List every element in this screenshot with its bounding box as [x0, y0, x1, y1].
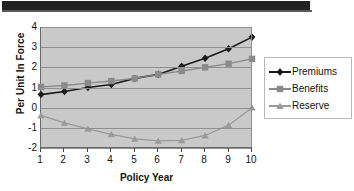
data-point-marker	[225, 61, 231, 67]
data-point-marker	[38, 84, 44, 90]
x-tick-label: 9	[218, 154, 238, 165]
data-point-marker	[202, 132, 209, 138]
y-tick-label: 3	[7, 42, 37, 52]
x-tick	[204, 148, 205, 152]
data-point-marker	[132, 75, 138, 81]
plot-right-border	[251, 27, 252, 147]
series-line-benefits	[41, 59, 252, 87]
y-tick-label: -2	[7, 143, 37, 153]
data-point-marker	[277, 68, 284, 76]
x-tick	[110, 148, 111, 152]
data-point-marker	[155, 71, 161, 77]
data-point-marker	[85, 80, 91, 86]
gridline	[41, 67, 252, 68]
y-axis-tick-labels: 43210-1-2	[4, 27, 37, 148]
plot-area	[40, 27, 252, 148]
x-tick-label: 6	[147, 154, 167, 165]
y-tick-label: -1	[7, 123, 37, 133]
x-tick-label: 3	[77, 154, 97, 165]
x-tick	[181, 148, 182, 152]
x-axis-title: Policy Year	[40, 172, 253, 183]
gridline	[41, 128, 252, 129]
legend-symbol	[268, 66, 292, 78]
chart-legend: PremiumsBenefitsReserve	[264, 57, 352, 119]
chart-figure: Per Unit In Force 43210-1-2 12345678910 …	[0, 12, 354, 191]
legend-symbol	[268, 83, 292, 95]
x-tick-label: 7	[171, 154, 191, 165]
data-point-marker	[108, 78, 114, 84]
y-tick-label: 4	[7, 22, 37, 32]
series-line-reserve	[41, 108, 252, 141]
x-tick	[40, 148, 41, 152]
gridline	[41, 47, 252, 48]
legend-marker-square-icon	[268, 83, 292, 95]
x-tick-label: 5	[124, 154, 144, 165]
data-point-marker	[277, 85, 283, 91]
data-point-marker	[276, 102, 283, 108]
legend-symbol	[268, 100, 292, 112]
x-tick-label: 2	[53, 154, 73, 165]
legend-item-benefits[interactable]: Benefits	[268, 80, 351, 97]
data-point-marker	[249, 56, 255, 62]
x-tick-label: 1	[30, 154, 50, 165]
data-point-marker	[202, 54, 209, 62]
x-tick	[157, 148, 158, 152]
y-tick-label: 2	[7, 62, 37, 72]
x-tick-label: 10	[241, 154, 261, 165]
data-point-marker	[178, 68, 184, 74]
x-tick	[228, 148, 229, 152]
gridline	[41, 27, 252, 28]
legend-label: Premiums	[292, 66, 337, 77]
y-tick-label: 1	[7, 83, 37, 93]
x-axis-tick-labels: 12345678910	[40, 154, 253, 168]
legend-label: Benefits	[292, 83, 328, 94]
x-tick	[251, 148, 252, 152]
x-tick	[63, 148, 64, 152]
legend-item-reserve[interactable]: Reserve	[268, 97, 351, 114]
gridline	[41, 88, 252, 89]
x-tick-label: 8	[194, 154, 214, 165]
legend-marker-diamond-icon	[268, 66, 292, 78]
legend-label: Reserve	[292, 100, 329, 111]
legend-item-premiums[interactable]: Premiums	[268, 63, 351, 80]
series-line-premiums	[41, 37, 252, 95]
legend-marker-triangle-icon	[268, 100, 292, 112]
gridline	[41, 108, 252, 109]
y-tick-label: 0	[7, 103, 37, 113]
x-tick	[87, 148, 88, 152]
data-point-marker	[37, 112, 44, 118]
data-point-marker	[249, 33, 256, 41]
data-point-marker	[38, 91, 45, 99]
x-tick	[134, 148, 135, 152]
x-tick-label: 4	[100, 154, 120, 165]
